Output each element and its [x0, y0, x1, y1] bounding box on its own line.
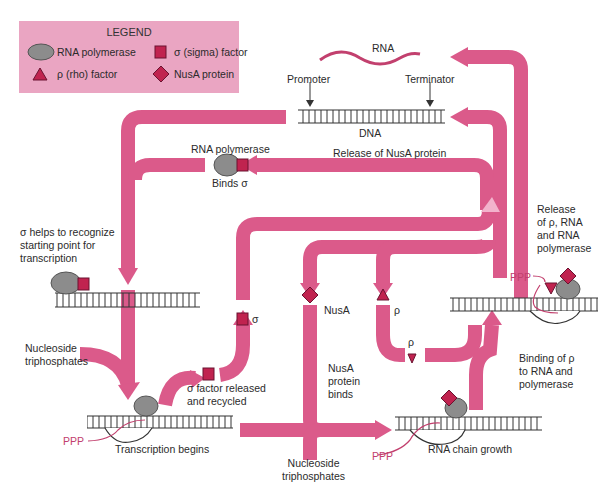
arrow-to-nusa [310, 240, 489, 285]
polymerase-icon [214, 154, 240, 176]
arrow-sigma-loop [243, 210, 489, 300]
label-promoter: Promoter [287, 73, 330, 86]
legend-title: LEGEND [19, 26, 239, 38]
label-rho-small: ρ [408, 336, 414, 349]
arrow-ntp2-in [310, 430, 320, 460]
arrow-polymerase-join [135, 165, 205, 180]
sigma-factor-icon [78, 278, 89, 290]
rho-icon [408, 354, 416, 363]
rho-icon [545, 283, 557, 294]
label-nusa-binds: NusA protein binds [328, 362, 360, 401]
label-nucleoside-1: Nucleoside triphosphates [25, 342, 88, 368]
sigma-legend-icon [154, 45, 168, 59]
label-nucleoside-2: Nucleoside triphosphates [282, 457, 345, 483]
label-nusa: NusA [324, 304, 350, 317]
label-sigma-released: σ factor released and recycled [187, 382, 266, 408]
label-sigma: σ [252, 313, 258, 326]
label-rho: ρ [394, 304, 400, 317]
label-binds-sigma: Binds σ [212, 177, 248, 190]
polymerase-icon [134, 396, 158, 416]
rho-legend-icon [31, 66, 49, 82]
arrow-sigma-up [220, 325, 243, 375]
legend: LEGEND RNA polymerase σ (sigma) factor ρ… [19, 21, 239, 93]
arrow-rho-right [425, 325, 475, 355]
label-rna: RNA [372, 42, 394, 55]
label-sigma-helps: σ helps to recognize starting point for … [20, 226, 115, 265]
arrow-release-nusa [257, 165, 487, 210]
label-binding-rho: Binding of ρ to RNA and polymerase [519, 352, 575, 391]
legend-label-nusa: NusA protein [174, 68, 234, 80]
dna-top [298, 82, 445, 123]
legend-label-sigma: σ (sigma) factor [174, 46, 248, 58]
sigma-factor-icon [203, 368, 214, 380]
legend-label-polymerase: RNA polymerase [57, 46, 136, 58]
legend-label-rho: ρ (rho) factor [57, 68, 117, 80]
sigma-factor-icon [237, 313, 248, 325]
label-rna-chain-growth: RNA chain growth [428, 443, 512, 456]
arrow-to-rho [383, 247, 395, 285]
label-rna-polymerase: RNA polymerase [191, 143, 270, 156]
label-ppp-1: PPP [63, 435, 84, 447]
polymerase-icon [51, 272, 81, 294]
polymerase-legend-icon [26, 43, 56, 61]
label-ppp-2: PPP [372, 450, 393, 462]
arrow-nusa-down [310, 305, 320, 430]
nusa-legend-icon [152, 65, 170, 83]
label-release-nusa: Release of NusA protein [333, 147, 446, 160]
label-release-rho: Release of ρ, RNA and RNA polymerase [537, 203, 591, 255]
rna-strand [320, 52, 420, 64]
label-terminator: Terminator [405, 73, 455, 86]
sigma-factor-icon [237, 159, 248, 171]
label-ppp-3: PPP [510, 271, 531, 283]
label-transcription-begins: Transcription begins [115, 443, 209, 456]
arrow-dna-to-left [128, 117, 286, 268]
label-dna: DNA [359, 127, 381, 140]
